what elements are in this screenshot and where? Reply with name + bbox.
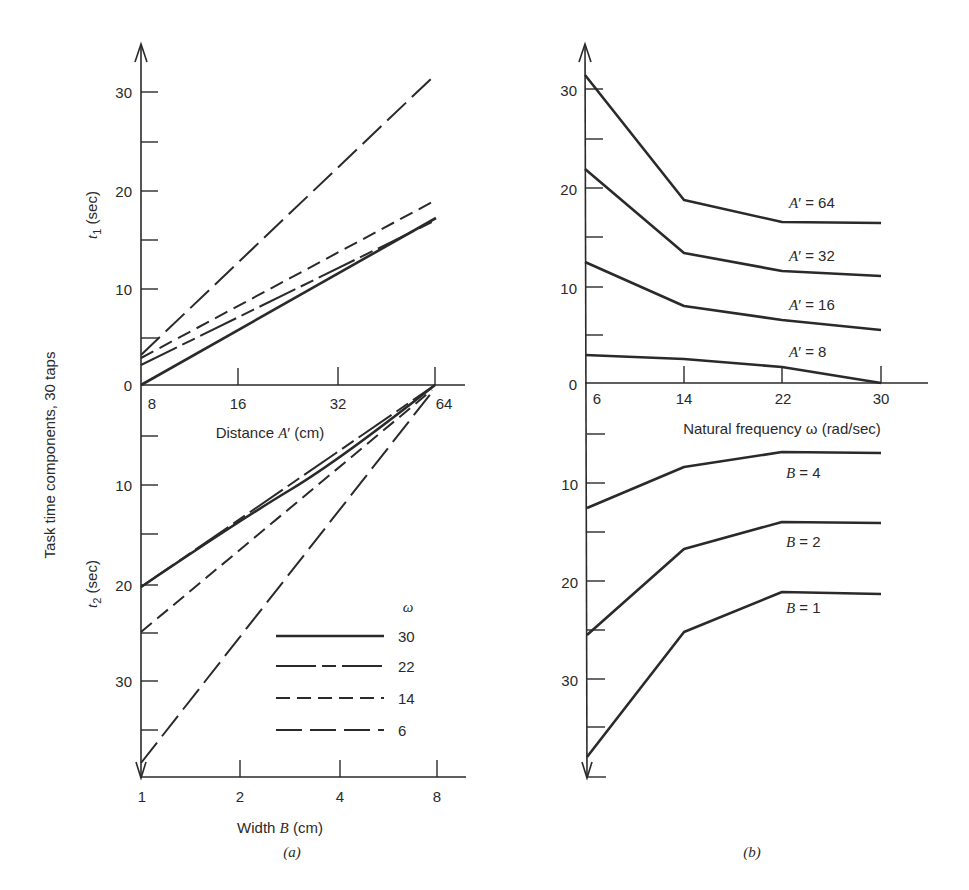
legend-label-30: 30 — [398, 628, 415, 645]
shared-y-axis-label: Task time components, 30 taps — [41, 352, 58, 559]
t2-axis-title: t2 (sec) — [83, 560, 103, 608]
t2-tick-20: 20 — [115, 577, 132, 594]
panel-b-caption: (b) — [743, 844, 761, 861]
line-t1-omega-6 — [141, 76, 434, 355]
frequency-axis-title: Natural frequency ω (rad/sec) — [683, 420, 881, 437]
panel-b: 6 14 22 30 Natural frequency ω (rad/sec)… — [560, 44, 928, 861]
label-b-1: B = 1 — [786, 599, 821, 616]
line-a-16 — [585, 262, 881, 330]
b-t1-tick-10: 10 — [560, 280, 577, 297]
label-a-16: A′ = 16 — [788, 296, 835, 313]
b-t2-tick-20: 20 — [561, 574, 578, 591]
t2-tick-30: 30 — [115, 673, 132, 690]
t1-axis-title: t1 (sec) — [83, 191, 103, 239]
t2-tick-10: 10 — [115, 477, 132, 494]
t1-tick-30: 30 — [115, 84, 132, 101]
b-tick-1: 1 — [138, 788, 146, 805]
line-t2-omega-6 — [141, 392, 432, 763]
b-t1-tick-20: 20 — [560, 181, 577, 198]
label-a-32: A′ = 32 — [788, 247, 835, 264]
b-t2-tick-10: 10 — [561, 476, 578, 493]
b-tick-4: 4 — [336, 788, 344, 805]
line-t2-omega-22 — [141, 385, 435, 587]
label-b-4: B = 4 — [786, 464, 821, 481]
w-tick-6: 6 — [593, 390, 601, 407]
distance-axis-title: Distance A′ (cm) — [216, 424, 325, 441]
line-b-4 — [587, 452, 881, 508]
width-axis-title: Width B (cm) — [237, 819, 323, 836]
line-t1-omega-30 — [141, 218, 436, 385]
b-t1-tick-0: 0 — [569, 376, 577, 393]
omega-legend: ω 30 22 14 6 — [276, 599, 415, 739]
line-b-1 — [587, 592, 881, 757]
label-a-64: A′ = 64 — [788, 194, 835, 211]
t1-tick-10: 10 — [115, 281, 132, 298]
w-tick-22: 22 — [775, 390, 792, 407]
t1-tick-20: 20 — [115, 183, 132, 200]
legend-label-22: 22 — [398, 658, 415, 675]
line-t1-omega-14 — [141, 200, 436, 358]
line-a-8 — [585, 355, 881, 383]
b-tick-8: 8 — [433, 788, 441, 805]
line-b-2 — [587, 522, 881, 635]
legend-title-omega: ω — [403, 599, 414, 615]
b-tick-2: 2 — [236, 788, 244, 805]
label-b-2: B = 2 — [786, 533, 821, 550]
x-tick-8: 8 — [148, 395, 156, 412]
panel-a-caption: (a) — [283, 844, 301, 861]
b-t1-tick-30: 30 — [560, 82, 577, 99]
x-tick-16: 16 — [230, 395, 247, 412]
t1-tick-0: 0 — [124, 377, 132, 394]
panel-a: 8 16 32 64 Distance A′ (cm) 30 20 10 0 t… — [83, 44, 466, 861]
b-t2-tick-30: 30 — [561, 672, 578, 689]
figure-canvas: .ax { stroke:#2a2a2a; stroke-width:1.6; … — [0, 0, 969, 890]
label-a-8: A′ = 8 — [788, 343, 826, 360]
legend-label-6: 6 — [398, 722, 406, 739]
line-t1-omega-22 — [141, 220, 436, 365]
w-tick-14: 14 — [676, 390, 693, 407]
line-a-64 — [585, 75, 881, 223]
panel-b-y-axis — [585, 45, 587, 777]
x-tick-32: 32 — [330, 395, 347, 412]
x-tick-64: 64 — [436, 395, 453, 412]
legend-label-14: 14 — [398, 690, 415, 707]
w-tick-30: 30 — [873, 390, 890, 407]
